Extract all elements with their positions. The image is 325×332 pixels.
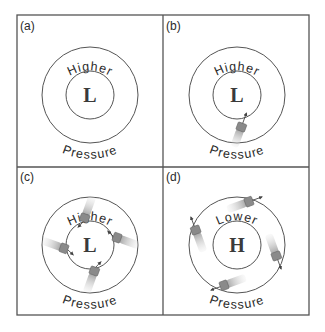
- panel-c: (c) Higher L Pressure: [20, 170, 140, 312]
- pressure-center-label: L: [83, 84, 96, 106]
- panel-label: (a): [20, 19, 35, 33]
- bottom-label: Pressure: [61, 293, 120, 312]
- top-label: Higher: [65, 59, 115, 78]
- panel-d: (d) Lower H Pressure: [166, 170, 285, 312]
- bottom-label: Pressure: [61, 143, 120, 162]
- pressure-center-label: L: [230, 84, 243, 106]
- pressure-center-label: L: [83, 234, 96, 256]
- air-parcel: [226, 193, 264, 214]
- pressure-center-label: H: [229, 234, 245, 256]
- air-parcel: [82, 259, 102, 294]
- top-label: Higher: [212, 59, 262, 78]
- air-parcel: [41, 236, 76, 256]
- panel-b: (b) Higher L Pressure: [166, 19, 285, 162]
- air-parcel: [264, 233, 285, 271]
- bottom-label: Pressure: [208, 293, 267, 312]
- figure-canvas: (a) Higher L Pressure (b) Higher L Press…: [0, 0, 325, 332]
- top-label: Lower: [214, 209, 260, 228]
- air-parcel: [209, 273, 247, 294]
- panel-label: (c): [20, 170, 34, 184]
- panel-label: (b): [166, 19, 181, 33]
- panel-a: (a) Higher L Pressure: [20, 19, 138, 162]
- panel-frame: [17, 15, 309, 315]
- panel-label: (d): [166, 170, 181, 184]
